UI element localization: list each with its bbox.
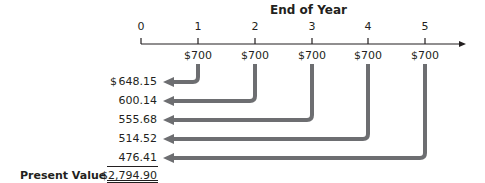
present-value-year-5: 476.41 [119, 151, 158, 164]
cash-flow-year-1: $700 [178, 49, 218, 62]
cash-flow-year-5: $700 [405, 49, 445, 62]
year-label-4: 4 [358, 20, 378, 33]
arrowhead-icon [163, 115, 174, 125]
arrowheads [163, 77, 174, 163]
present-value-year-2: 600.14 [119, 94, 158, 107]
year-label-0: 0 [131, 20, 151, 33]
timeline-diagram [0, 0, 485, 183]
arrow-year-5 [172, 64, 425, 158]
year-label-2: 2 [245, 20, 265, 33]
present-value-year-4: 514.52 [119, 132, 158, 145]
arrow-year-1 [172, 64, 198, 82]
timeline-ticks [141, 38, 425, 44]
arrowhead-icon [163, 96, 174, 106]
present-value-year-1: 648.15 [119, 75, 158, 88]
timeline-arrowhead-icon [459, 41, 466, 47]
cash-flow-year-3: $700 [292, 49, 332, 62]
currency-symbol: $ [110, 75, 117, 88]
year-label-5: 5 [415, 20, 435, 33]
sum-rule [107, 166, 158, 167]
double-underline-bottom [107, 182, 158, 183]
double-underline-top [107, 180, 158, 181]
arrowhead-icon [163, 77, 174, 87]
year-label-1: 1 [188, 20, 208, 33]
present-value-label: Present Value [20, 169, 106, 182]
arrow-year-3 [172, 64, 312, 120]
cash-flow-year-2: $700 [235, 49, 275, 62]
arrowhead-icon [163, 134, 174, 144]
discount-arrows [172, 64, 425, 158]
year-label-3: 3 [302, 20, 322, 33]
diagram-title: End of Year [270, 3, 340, 17]
cash-flow-year-4: $700 [348, 49, 388, 62]
present-value-year-3: 555.68 [119, 113, 158, 126]
arrowhead-icon [163, 153, 174, 163]
